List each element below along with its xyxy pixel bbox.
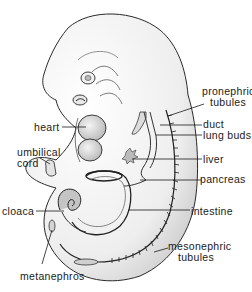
embryo-diagram: pronephric tubules duct lung buds heart …: [0, 0, 252, 292]
label-umbilical-cord: umbilical cord: [17, 147, 61, 169]
label-metanephros: metanephros: [20, 271, 85, 282]
cloaca-organ: [58, 189, 81, 210]
label-cord: cord: [17, 158, 61, 169]
label-liver: liver: [203, 154, 224, 165]
label-intestine: intestine: [191, 206, 233, 217]
label-lung-buds: lung buds: [203, 130, 251, 141]
label-pancreas: pancreas: [200, 174, 246, 185]
label-cloaca: cloaca: [2, 206, 34, 217]
label-heart: heart: [34, 122, 59, 133]
heart-organ: [78, 115, 106, 141]
label-mesonephric-tubules: mesonephric tubules: [168, 241, 231, 263]
stomodeum: [73, 95, 87, 105]
label-tubules: tubules: [202, 97, 252, 108]
label-tubules-2: tubules: [168, 252, 231, 263]
label-pronephric-tubules: pronephric tubules: [202, 86, 252, 108]
metanephros-organ: [74, 259, 98, 265]
